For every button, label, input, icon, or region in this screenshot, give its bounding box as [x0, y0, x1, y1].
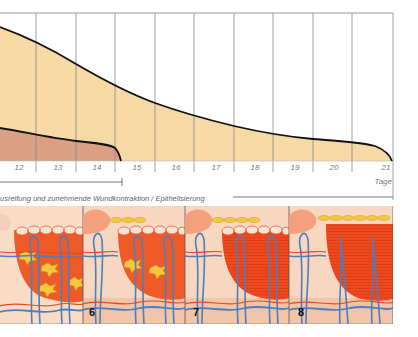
- healing-phase-chart: 12 13 14 15 16 17 18 19 20 21 Tage usrei…: [0, 0, 418, 200]
- panel-label-8: 8: [298, 306, 304, 318]
- tick-19: 19: [291, 163, 300, 172]
- tick-15: 15: [133, 163, 142, 172]
- panel-5: [0, 206, 85, 324]
- axis-unit-label: Tage: [375, 177, 393, 186]
- tick-17: 17: [212, 163, 221, 172]
- tick-14: 14: [93, 163, 102, 172]
- tissue-illustration-strip: 6 7 8: [0, 206, 393, 324]
- tick-12: 12: [15, 163, 24, 172]
- tick-20: 20: [330, 163, 339, 172]
- chart-svg: [0, 0, 418, 200]
- panel-label-7: 7: [193, 306, 199, 318]
- panel-label-6: 6: [89, 306, 95, 318]
- tick-16: 16: [172, 163, 181, 172]
- tick-18: 18: [251, 163, 260, 172]
- tick-13: 13: [54, 163, 63, 172]
- phase-label: usreifung und zunehmende Wundkontraktion…: [0, 194, 205, 203]
- tick-21: 21: [382, 163, 391, 172]
